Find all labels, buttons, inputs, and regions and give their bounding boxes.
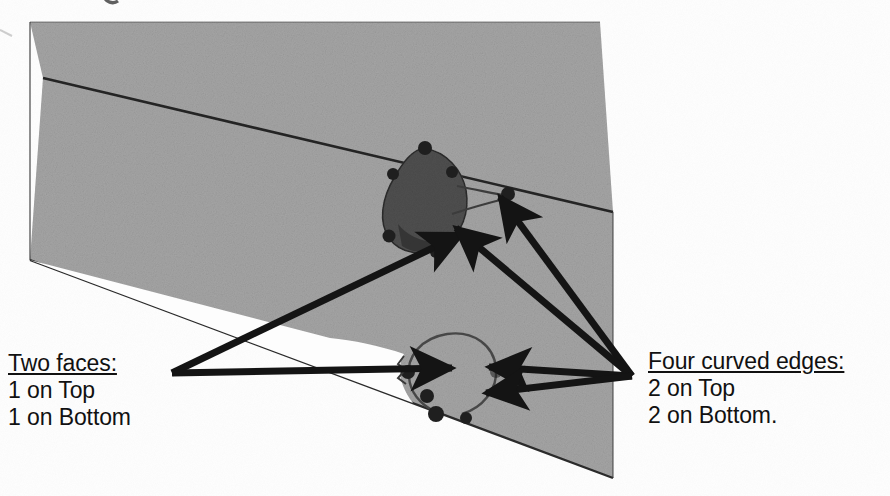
two-faces-line-2: 1 on Bottom	[8, 404, 131, 431]
four-curved-edges-heading: Four curved edges:	[648, 348, 844, 375]
two-faces-line-1: 1 on Top	[8, 377, 131, 404]
four-curved-edges-line-1: 2 on Top	[648, 375, 844, 402]
four-curved-edges-line-2: 2 on Bottom.	[648, 402, 844, 429]
two-faces-heading: Two faces:	[8, 350, 131, 377]
arrow-to-lower-face	[172, 368, 452, 373]
two-faces-callout: Two faces: 1 on Top 1 on Bottom	[8, 350, 131, 431]
figure-canvas: Two faces: 1 on Top 1 on Bottom Four cur…	[0, 0, 890, 496]
four-curved-edges-callout: Four curved edges: 2 on Top 2 on Bottom.	[648, 348, 844, 429]
